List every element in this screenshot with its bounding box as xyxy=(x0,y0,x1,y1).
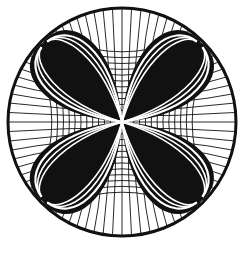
geometric-flower-artwork xyxy=(0,0,245,259)
